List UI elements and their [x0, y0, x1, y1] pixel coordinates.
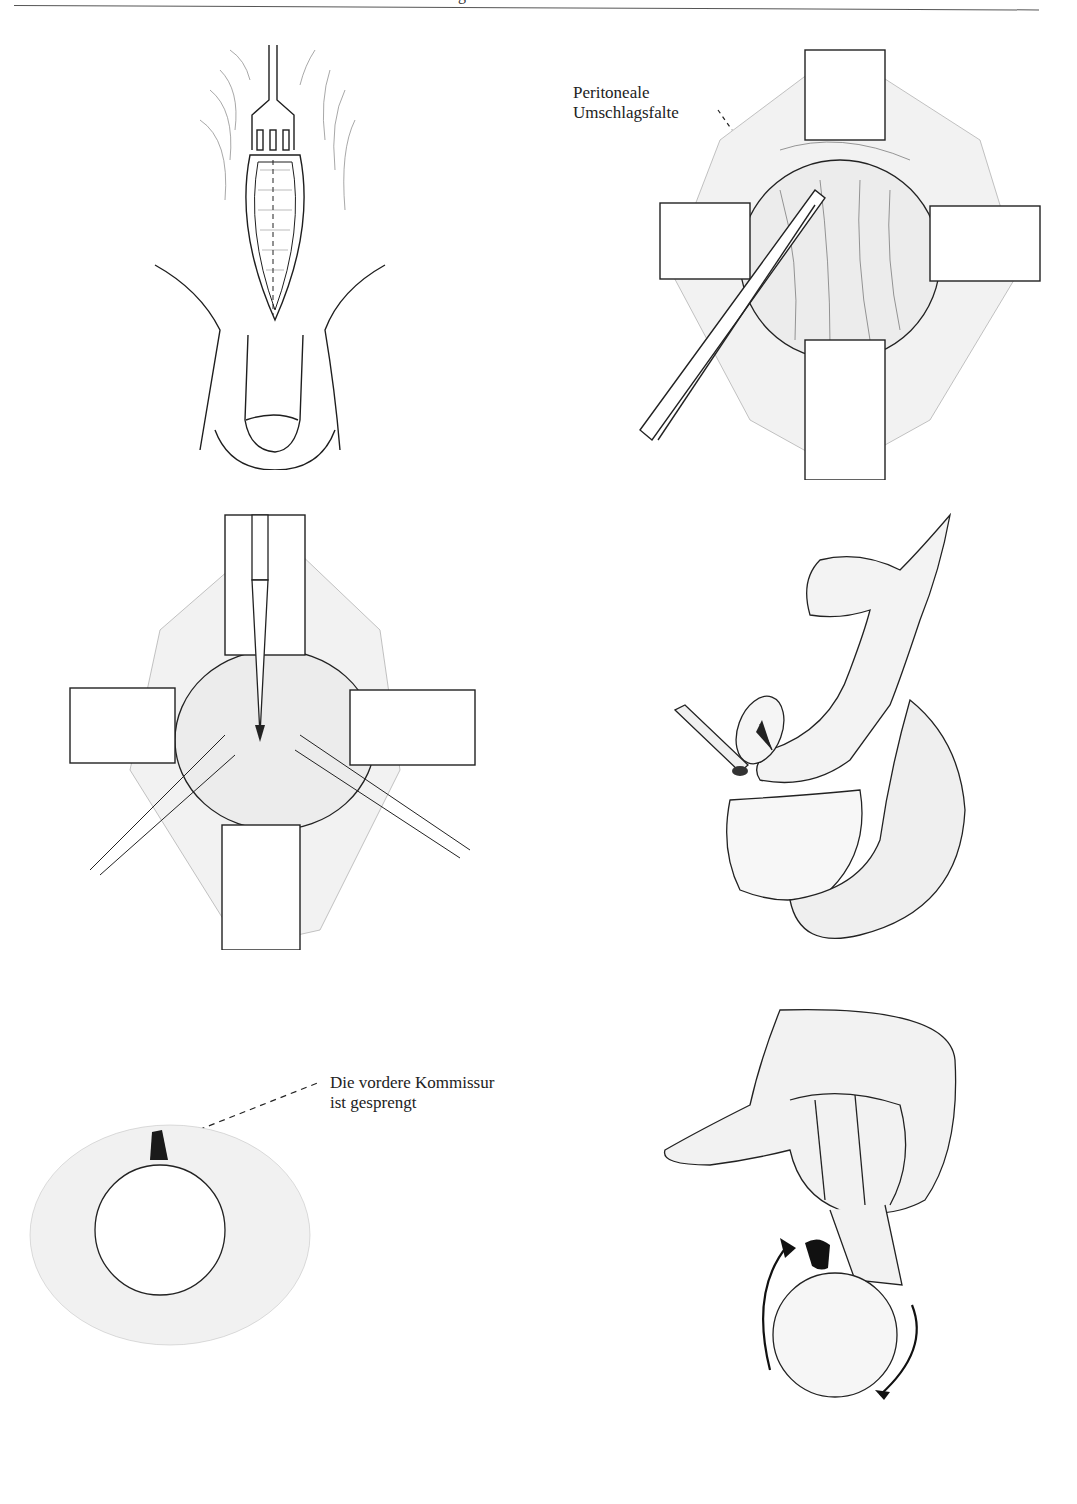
figure-sagittal-finger [660, 510, 990, 950]
bladder-incision-illustration [60, 510, 490, 950]
header-text-fragment: g [458, 0, 466, 4]
header-rule [14, 5, 1039, 10]
figure-commissure [0, 1060, 340, 1350]
figure-bladder-exposure [630, 40, 1050, 480]
hand-dilation-illustration [640, 1000, 980, 1400]
figure-hand-dilation [640, 1000, 980, 1400]
figure-incision-fork [140, 30, 440, 470]
bladder-exposure-illustration [630, 40, 1050, 480]
sagittal-finger-illustration [660, 510, 990, 950]
label-anterior-commissure: Die vordere Kommissur ist gesprengt [330, 1073, 494, 1113]
incision-illustration [140, 30, 440, 470]
figure-bladder-incision [60, 510, 490, 950]
commissure-illustration [0, 1060, 340, 1350]
